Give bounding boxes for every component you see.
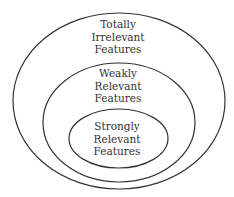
middle-label: Weakly Relevant Features xyxy=(1,67,234,105)
inner-label: Strongly Relevant Features xyxy=(0,120,234,158)
outer-label-line-2: Irrelevant xyxy=(1,31,234,44)
inner-label-line-2: Relevant xyxy=(0,133,234,146)
middle-label-line-2: Relevant xyxy=(1,80,234,93)
outer-label-line-1: Totally xyxy=(1,18,234,31)
inner-label-line-3: Features xyxy=(0,145,234,158)
middle-label-line-3: Features xyxy=(1,92,234,105)
inner-label-line-1: Strongly xyxy=(0,120,234,133)
middle-label-line-1: Weakly xyxy=(1,67,234,80)
outer-label-line-3: Features xyxy=(1,43,234,56)
outer-label: Totally Irrelevant Features xyxy=(1,18,234,56)
